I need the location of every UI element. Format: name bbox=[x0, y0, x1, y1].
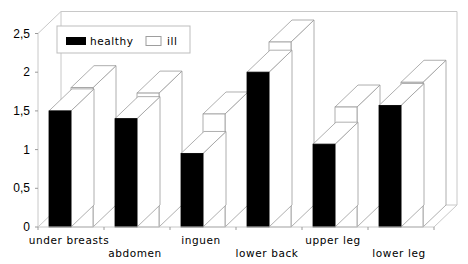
bar-healthy bbox=[379, 83, 424, 227]
y-tick-label: 2,5 bbox=[13, 27, 30, 41]
y-tick-label: 1,5 bbox=[13, 104, 30, 118]
legend-swatch-ill bbox=[146, 37, 161, 46]
y-tick-label: 1 bbox=[23, 143, 30, 157]
legend: healthy ill bbox=[57, 26, 190, 53]
y-tick-label: 0 bbox=[23, 220, 30, 234]
x-category-label: inguen bbox=[181, 234, 221, 246]
bar-healthy bbox=[49, 89, 94, 227]
y-tick-label: 2 bbox=[23, 65, 30, 79]
y-axis: 00,511,522,5 bbox=[13, 27, 38, 235]
x-axis: under breastsabdomeninguenlower backuppe… bbox=[29, 227, 434, 259]
legend-swatch-healthy bbox=[66, 37, 86, 45]
x-category-label: lower leg bbox=[372, 247, 426, 259]
bar-chart: 00,511,522,5 under breastsabdomeninguenl… bbox=[0, 0, 468, 264]
bar-healthy bbox=[313, 122, 358, 227]
x-category-label: abdomen bbox=[108, 247, 162, 259]
legend-label-healthy: healthy bbox=[90, 35, 134, 47]
y-tick-label: 0,5 bbox=[13, 181, 30, 195]
bar-healthy bbox=[115, 97, 160, 227]
x-category-label: upper leg bbox=[305, 234, 361, 246]
bar-healthy bbox=[247, 50, 292, 227]
x-category-label: under breasts bbox=[29, 234, 110, 246]
legend-label-ill: ill bbox=[167, 35, 178, 47]
x-category-label: lower back bbox=[236, 247, 299, 259]
